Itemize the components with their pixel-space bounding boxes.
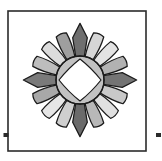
rosette-figure: Rosette Ornament Sixteen-petal radial ro… xyxy=(0,0,162,161)
rosette-core xyxy=(56,56,104,104)
left-tick xyxy=(4,133,9,137)
rosette-illustration xyxy=(0,0,162,161)
right-tick xyxy=(156,133,161,137)
